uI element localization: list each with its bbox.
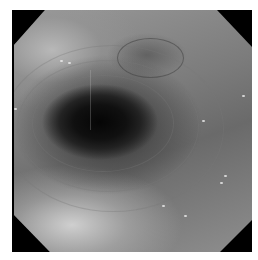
light-reflection (242, 95, 245, 97)
light-reflection (60, 60, 63, 62)
light-reflection (202, 120, 205, 122)
endoscopic-scene (12, 10, 252, 252)
mucosal-ridge (117, 38, 184, 78)
light-reflection (184, 215, 187, 217)
light-streak (90, 70, 91, 130)
vignette-edge (12, 10, 14, 252)
endoscopy-image-frame (12, 10, 252, 252)
light-reflection (224, 175, 227, 177)
light-reflection (162, 205, 165, 207)
light-reflection (220, 182, 223, 184)
light-reflection (14, 108, 17, 110)
light-reflection (68, 62, 71, 64)
mucosal-fold (2, 45, 224, 212)
